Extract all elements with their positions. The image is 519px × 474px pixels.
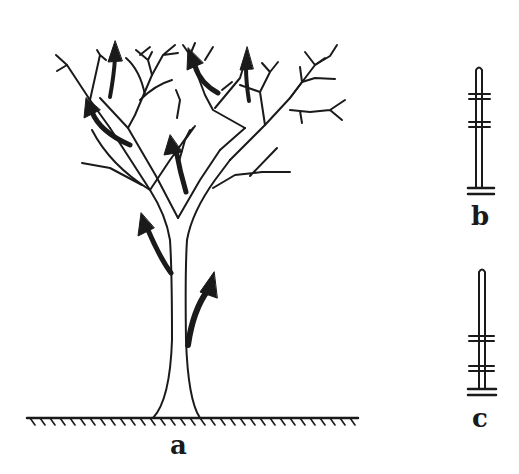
arrow-trunk-right: [188, 272, 217, 345]
arrow-left-upper: [108, 41, 122, 97]
panel-label-b: b: [471, 203, 489, 229]
tree-diagram: [0, 0, 519, 474]
figure-canvas: a b c: [0, 0, 519, 474]
ground-line: [27, 418, 358, 425]
stick-b: [468, 68, 494, 195]
panel-label-a: a: [170, 432, 187, 458]
left-limb: [56, 45, 193, 190]
stick-c: [468, 270, 496, 396]
panel-label-c: c: [472, 405, 488, 431]
